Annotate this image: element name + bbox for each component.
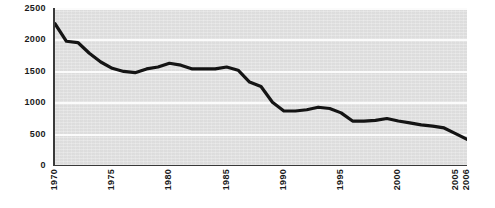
y-tick-label: 2000 bbox=[2, 34, 46, 44]
x-tick-label: 2005 bbox=[450, 169, 460, 190]
x-tick-label: 1970 bbox=[49, 169, 59, 190]
x-tick-label: 1995 bbox=[335, 169, 345, 190]
x-tick-label: 1975 bbox=[106, 169, 116, 190]
x-tick-label: 2006 bbox=[461, 169, 471, 190]
y-tick-label: 500 bbox=[2, 129, 46, 139]
data-polyline bbox=[55, 24, 467, 140]
y-tick-label: 1500 bbox=[2, 66, 46, 76]
y-tick-label: 2500 bbox=[2, 3, 46, 13]
x-tick-label: 1985 bbox=[221, 169, 231, 190]
x-tick-label: 2000 bbox=[392, 169, 402, 190]
data-series-line bbox=[55, 8, 467, 165]
plot-area bbox=[53, 8, 467, 166]
y-tick-label: 0 bbox=[2, 160, 46, 170]
y-tick-label: 1000 bbox=[2, 97, 46, 107]
line-chart-figure: 05001000150020002500 1970197519801985199… bbox=[0, 0, 495, 208]
x-tick-label: 1990 bbox=[278, 169, 288, 190]
x-tick-label: 1980 bbox=[163, 169, 173, 190]
y-axis-labels: 05001000150020002500 bbox=[0, 0, 50, 208]
x-axis-labels: 197019751980198519901995200020052006 bbox=[53, 167, 465, 208]
